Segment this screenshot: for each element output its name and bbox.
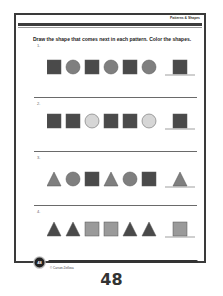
pattern-row-4 [47, 221, 207, 237]
pattern-shapes [47, 221, 207, 239]
shape-square [85, 222, 99, 236]
shape-triangle [142, 222, 156, 236]
page-badge: 48 [33, 255, 46, 268]
divider [34, 205, 197, 206]
shape-triangle [123, 222, 137, 236]
shape-square [104, 114, 118, 128]
worksheet-frame: Patterns & Shapes Draw the shape that co… [14, 13, 206, 263]
shape-square [142, 172, 156, 186]
shape-square [104, 222, 118, 236]
shape-circle [142, 60, 156, 74]
header-divider [18, 27, 202, 28]
shape-square [47, 60, 61, 74]
footer-bar [48, 260, 198, 263]
pattern-shapes [47, 113, 207, 131]
page-number: 48 [0, 270, 223, 289]
shape-square [85, 172, 99, 186]
shape-square [85, 60, 99, 74]
pattern-row-2 [47, 113, 207, 129]
shape-triangle [47, 172, 61, 186]
shape-triangle [66, 222, 80, 236]
gear-badge-icon: 48 [33, 256, 46, 269]
pattern-number-4: 4. [37, 209, 40, 214]
shape-circle [123, 172, 137, 186]
divider [34, 97, 197, 98]
pattern-number-2: 2. [37, 101, 40, 106]
answer-shape-square [173, 222, 187, 236]
shape-square [47, 114, 61, 128]
instruction-text: Draw the shape that comes next in each p… [33, 36, 191, 42]
header-bar [18, 23, 202, 26]
shape-circle [104, 60, 118, 74]
shape-circle [66, 60, 80, 74]
answer-shape-square [173, 114, 187, 128]
shape-square [123, 60, 137, 74]
pattern-shapes [47, 171, 207, 189]
shape-square [123, 114, 137, 128]
header-label: Patterns & Shapes [170, 16, 200, 20]
pattern-row-3 [47, 171, 207, 187]
shape-triangle [104, 172, 118, 186]
answer-shape-triangle [173, 172, 187, 186]
pattern-shapes [47, 59, 207, 77]
shape-triangle [47, 222, 61, 236]
shape-circle [85, 114, 99, 128]
divider [34, 151, 197, 152]
pattern-row-1 [47, 59, 207, 75]
shape-circle [142, 114, 156, 128]
answer-shape-square [173, 60, 187, 74]
shape-square [66, 114, 80, 128]
pattern-number-3: 3. [37, 155, 40, 160]
pattern-number-1: 1. [37, 43, 40, 48]
badge-number: 48 [37, 260, 42, 265]
shape-circle [66, 172, 80, 186]
